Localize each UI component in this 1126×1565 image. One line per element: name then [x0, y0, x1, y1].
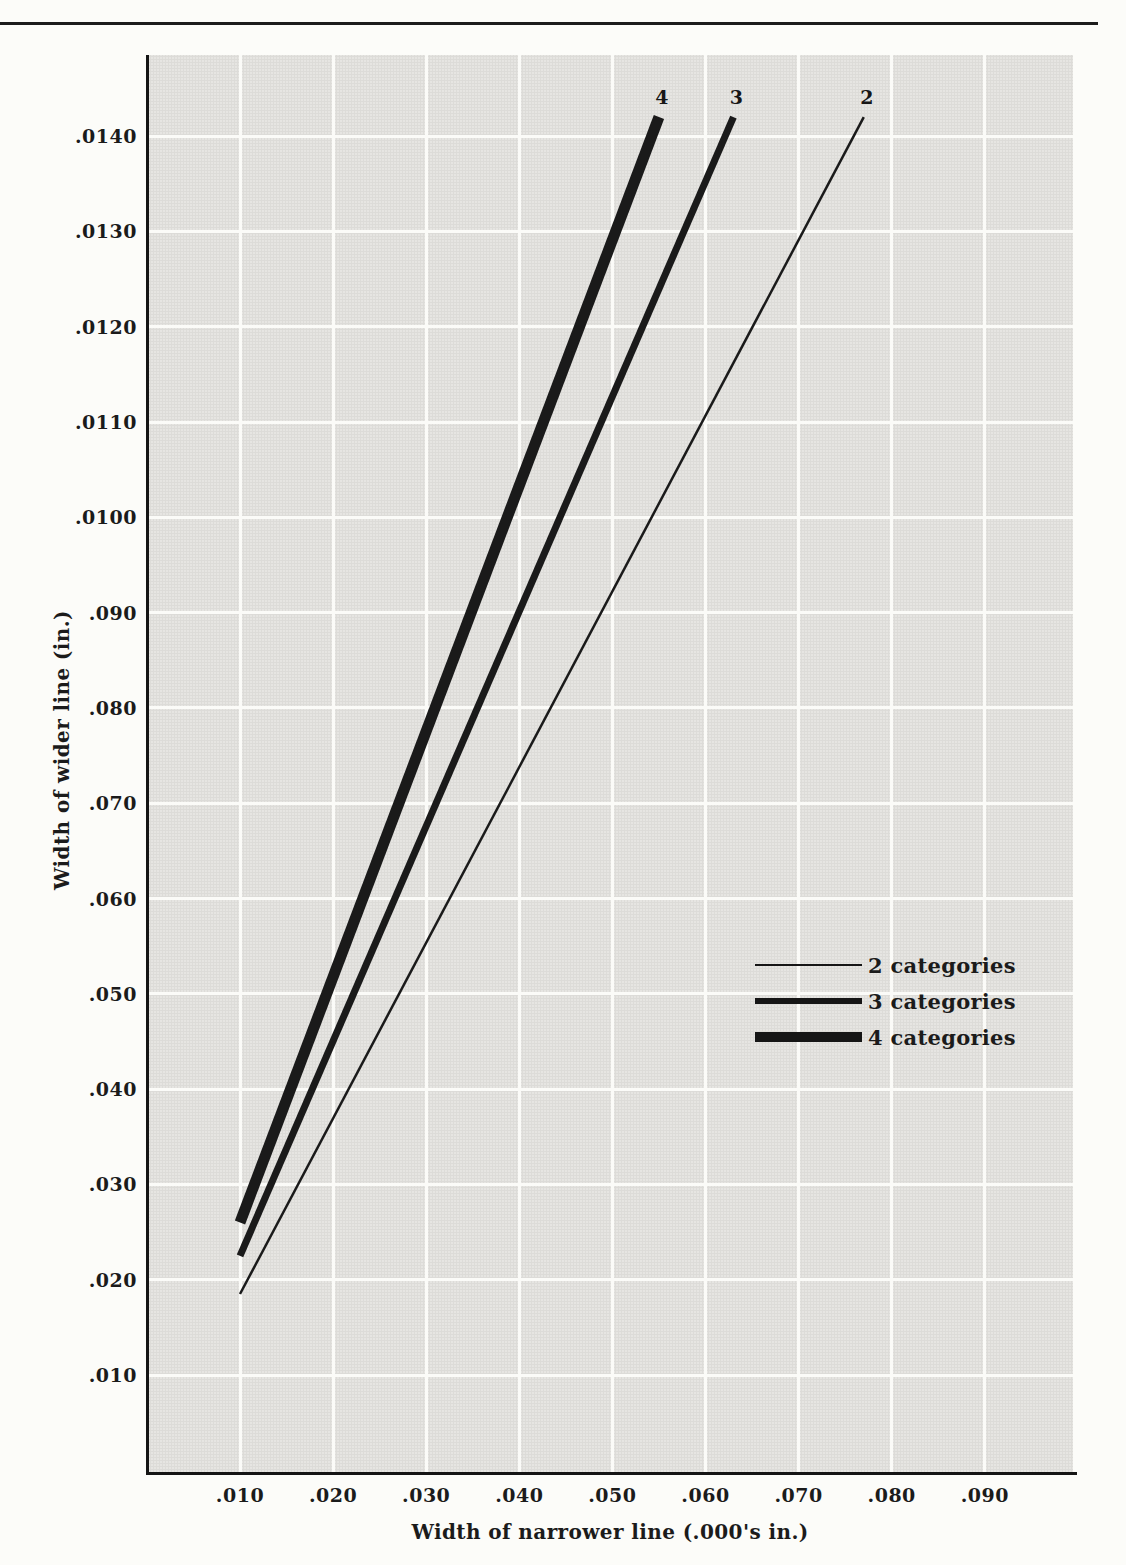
y-tick-label: .0110	[39, 411, 137, 433]
y-tick-label: .050	[39, 983, 137, 1005]
legend-line-swatch	[755, 1032, 862, 1042]
x-tick-label: .080	[868, 1484, 916, 1506]
legend-line-swatch	[755, 998, 862, 1004]
y-tick-label: .060	[39, 888, 137, 910]
series-end-label-2: 2	[860, 87, 873, 107]
y-tick-label: .0130	[39, 220, 137, 242]
y-tick-label: .030	[39, 1173, 137, 1195]
x-axis-title: Width of narrower line (.000's in.)	[411, 1520, 808, 1544]
x-tick-label: .020	[309, 1484, 357, 1506]
y-axis-title: Width of wider line (in.)	[50, 610, 74, 890]
legend-item: 4 categories	[755, 1019, 1016, 1055]
series-end-label-3: 3	[730, 87, 743, 107]
plot-area: 2342 categories3 categories4 categories	[149, 55, 1073, 1472]
y-tick-label: .040	[39, 1078, 137, 1100]
legend-item: 3 categories	[755, 983, 1016, 1019]
y-tick-label: .020	[39, 1269, 137, 1291]
series-end-label-4: 4	[655, 87, 668, 107]
x-tick-label: .040	[495, 1484, 543, 1506]
legend-label: 2 categories	[868, 953, 1016, 978]
legend: 2 categories3 categories4 categories	[755, 947, 1016, 1055]
y-tick-label: .0100	[39, 506, 137, 528]
page-top-rule	[0, 22, 1098, 25]
series-line-4-categories	[240, 117, 659, 1222]
x-tick-label: .030	[402, 1484, 450, 1506]
legend-label: 3 categories	[868, 989, 1016, 1014]
series-lines	[149, 55, 1073, 1472]
legend-line-swatch	[755, 964, 862, 966]
book-page: 2342 categories3 categories4 categories …	[0, 0, 1126, 1565]
x-axis-line	[146, 1472, 1077, 1475]
legend-label: 4 categories	[868, 1025, 1016, 1050]
x-tick-label: .090	[961, 1484, 1009, 1506]
legend-item: 2 categories	[755, 947, 1016, 983]
y-tick-label: .0140	[39, 125, 137, 147]
y-tick-label: .010	[39, 1364, 137, 1386]
x-tick-label: .060	[681, 1484, 729, 1506]
y-tick-label: .0120	[39, 316, 137, 338]
y-axis-line	[146, 55, 149, 1475]
x-tick-label: .050	[588, 1484, 636, 1506]
series-line-2-categories	[240, 117, 864, 1294]
series-line-3-categories	[240, 117, 733, 1256]
x-tick-label: .010	[216, 1484, 264, 1506]
x-tick-label: .070	[774, 1484, 822, 1506]
